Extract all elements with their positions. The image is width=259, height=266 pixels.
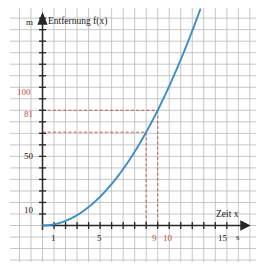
x-axis-unit-label: s bbox=[236, 233, 240, 242]
y-tick-label-81: 81 bbox=[24, 110, 33, 119]
y-tick-label-100: 100 bbox=[17, 88, 31, 97]
x-tick-label-10: 10 bbox=[163, 234, 172, 243]
chart-title: Entfernung f(x) bbox=[48, 17, 107, 27]
x-tick-label-9: 9 bbox=[152, 234, 157, 243]
x-tick-label-1: 1 bbox=[51, 234, 56, 243]
x-axis-title: Zeit x bbox=[216, 210, 238, 220]
x-tick-label-5: 5 bbox=[97, 234, 102, 243]
grid-major-lines bbox=[10, 8, 256, 262]
y-axis-arrow bbox=[39, 14, 47, 24]
y-tick-label-10: 10 bbox=[24, 206, 33, 215]
chart-canvas bbox=[0, 0, 259, 266]
y-tick-label-50: 50 bbox=[24, 152, 33, 161]
function-curve bbox=[43, 9, 201, 225]
y-axis-unit-label: m bbox=[26, 18, 33, 27]
x-tick-label-15: 15 bbox=[218, 234, 227, 243]
chart-figure: m Entfernung f(x) Zeit x s 100 81 50 10 … bbox=[0, 0, 259, 266]
x-axis-arrow bbox=[241, 222, 249, 230]
